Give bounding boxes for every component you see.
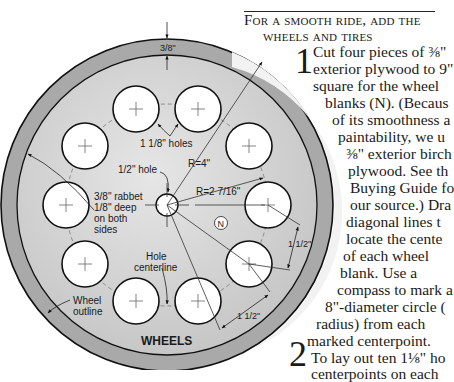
label-holes: 1 1/8" holes — [140, 138, 192, 149]
body-line: exterior plywood to 9" — [313, 61, 453, 76]
body-line: To lay out ten 1⅛" ho — [311, 350, 445, 365]
label-centerline-2: centerline — [134, 262, 178, 273]
body-line: diagonal lines t — [346, 214, 441, 229]
label-centerline-1: Hole — [146, 251, 167, 262]
body-line: locate the cente — [346, 231, 442, 246]
label-rabbet-3: on both — [94, 213, 127, 224]
body-line: our source.) Dra — [350, 197, 451, 212]
label-outer-radius: R=4" — [188, 158, 211, 169]
body-line: paintability, we u — [338, 129, 445, 144]
label-rabbet-1: 3/8" rabbet — [94, 191, 143, 202]
label-wheel-outline-1: Wheel — [73, 295, 101, 306]
body-line: marked centerpoint. — [307, 333, 431, 348]
label-wheel-outline-2: outline — [73, 306, 103, 317]
body-line: square for the wheel — [313, 78, 439, 93]
label-center-hole: 1/2" hole — [118, 164, 158, 175]
step-2-number: 2 — [289, 336, 307, 372]
body-line: radius) from each — [316, 316, 425, 331]
body-line: Buying Guide fo — [350, 180, 454, 195]
step-1-number: 1 — [295, 43, 313, 79]
body-line: blank. Use a — [340, 265, 417, 280]
label-spacing-1: 1 1/2" — [288, 239, 311, 249]
label-spacing-2: 1 1/2" — [237, 311, 260, 321]
body-line: of each wheel — [343, 248, 429, 263]
label-part-letter: N — [218, 219, 225, 229]
label-rabbet-4: sides — [94, 224, 117, 235]
label-hole-radius: R=2 7/16" — [196, 186, 241, 197]
body-line: compass to mark a — [337, 282, 453, 297]
heading-line-1: For a smooth ride, add the — [244, 12, 421, 29]
body-line: ⅜" exterior birch — [346, 146, 452, 161]
body-line: Cut four pieces of ⅜" — [313, 44, 446, 59]
body-line: plywood. See th — [348, 163, 448, 178]
body-line: blanks (N). (Becaus — [325, 95, 449, 110]
body-line: of its smoothness a — [332, 112, 450, 127]
label-rabbet-2: 1/8" deep — [94, 202, 137, 213]
diagram-title: WHEELS — [141, 334, 192, 348]
label-rabbet-width: 3/8" — [160, 43, 176, 53]
body-line: 8"-diameter circle ( — [325, 299, 446, 314]
body-line: centerpoints on each — [311, 366, 438, 381]
